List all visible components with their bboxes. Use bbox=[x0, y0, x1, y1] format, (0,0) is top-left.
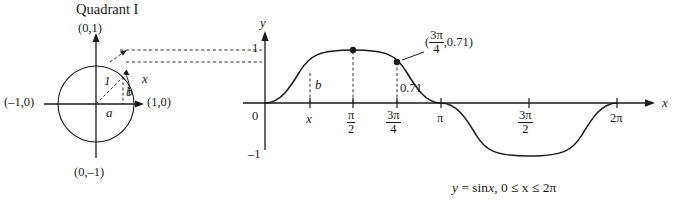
x-tick-label-3pi-4: 3π4 bbox=[386, 110, 401, 137]
y-tick-label-bottom: –1 bbox=[248, 148, 261, 161]
point-3pi-4 bbox=[394, 59, 400, 65]
caption-y: y bbox=[452, 180, 458, 195]
plot-x-axis-arrow bbox=[645, 99, 655, 106]
angle-x-label: x bbox=[142, 72, 148, 85]
three-pi-2-numerator: 3π bbox=[518, 109, 533, 122]
connector-pointer-arrow bbox=[120, 50, 127, 56]
plot-y-axis-arrow bbox=[261, 31, 268, 41]
x-tick-label-pi-2: π2 bbox=[347, 110, 355, 137]
three-pi-4-numerator: 3π bbox=[386, 109, 401, 122]
x-tick-label-2pi: 2π bbox=[610, 112, 623, 125]
circle-label-right: (1,0) bbox=[147, 96, 171, 109]
point-coordinate-label: (3π4,0.71) bbox=[425, 30, 473, 57]
leg-a-label: a bbox=[106, 106, 113, 119]
three-pi-2-denominator: 2 bbox=[518, 122, 533, 136]
circle-label-bottom: (0,–1) bbox=[74, 166, 104, 179]
x-tick-label-3pi-2: 3π2 bbox=[518, 110, 533, 137]
point-max bbox=[350, 47, 356, 53]
coord-value-rest: ,0.71) bbox=[444, 35, 473, 49]
figure-caption: y = sinx, 0 ≤ x ≤ 2π bbox=[452, 181, 556, 195]
plot-origin-label: 0 bbox=[252, 110, 258, 123]
value-071-label: 0.71 bbox=[400, 82, 422, 95]
curve-b-label: b bbox=[315, 78, 322, 91]
three-pi-4-denominator: 4 bbox=[386, 122, 401, 136]
page-title: Quadrant I bbox=[76, 2, 138, 17]
x-tick-label-pi: π bbox=[437, 112, 443, 125]
connector-lines bbox=[110, 50, 262, 62]
circle-label-top: (0,1) bbox=[78, 22, 102, 35]
plot-x-axis-label: x bbox=[662, 96, 668, 109]
circle-x-axis-arrow bbox=[135, 101, 144, 108]
three-pi-2-fraction: 3π2 bbox=[518, 109, 533, 136]
pi-2-fraction: π2 bbox=[347, 109, 355, 136]
caption-range: , 0 ≤ x ≤ 2π bbox=[494, 180, 556, 195]
caption-equals-sin: = sin bbox=[461, 180, 488, 195]
point-label-leader bbox=[402, 52, 424, 60]
leg-b-label: b bbox=[126, 85, 133, 98]
y-tick-label-top: 1 bbox=[252, 42, 258, 55]
pi-2-denominator: 2 bbox=[347, 122, 355, 136]
angle-arc-arrow bbox=[123, 70, 129, 76]
radius-label: 1 bbox=[104, 74, 111, 87]
pi-2-numerator: π bbox=[347, 109, 355, 122]
three-pi-4-fraction: 3π4 bbox=[386, 109, 401, 136]
coord-fraction-denominator: 4 bbox=[429, 42, 444, 56]
coord-fraction-numerator: 3π bbox=[429, 29, 444, 42]
x-tick-label-x: x bbox=[306, 112, 312, 125]
coord-fraction: 3π4 bbox=[429, 29, 444, 56]
plot-y-axis-label: y bbox=[260, 16, 266, 29]
circle-label-left: (–1,0) bbox=[4, 96, 34, 109]
